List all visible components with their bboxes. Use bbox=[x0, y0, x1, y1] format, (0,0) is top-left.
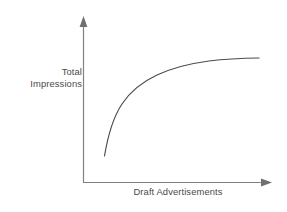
x-axis-label: Draft Advertisements bbox=[83, 186, 273, 198]
data-curve-total-impressions bbox=[105, 58, 260, 156]
y-axis-label: Total Impressions bbox=[0, 66, 82, 90]
y-axis-arrow-icon bbox=[80, 16, 88, 27]
y-axis-label-line-1: Total bbox=[0, 66, 82, 78]
y-axis-label-line-2: Impressions bbox=[0, 78, 82, 90]
chart-plot-area bbox=[0, 0, 287, 212]
chart-figure: Total Impressions Draft Advertisements bbox=[0, 0, 287, 212]
